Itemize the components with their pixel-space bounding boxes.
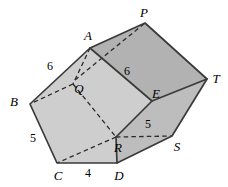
vertex-label-Q: Q — [74, 82, 83, 95]
vertex-label-C: C — [54, 169, 63, 182]
edge-length-label-ES: 5 — [145, 118, 151, 130]
vertex-label-E: E — [152, 87, 160, 100]
vertex-label-T: T — [212, 72, 219, 85]
edge-length-label-AE: 6 — [124, 65, 130, 77]
edge-length-label-CD: 4 — [85, 167, 91, 179]
vertex-label-P: P — [140, 6, 148, 19]
vertex-label-R: R — [114, 141, 122, 154]
edge-length-label-BA: 6 — [47, 60, 53, 72]
edge-length-label-BC: 5 — [30, 132, 36, 144]
geometry-figure: P A T E B Q R S C D 6 6 5 5 4 — [0, 0, 228, 187]
polyhedron-drawing — [0, 0, 228, 187]
vertex-label-A: A — [84, 29, 92, 42]
vertex-label-S: S — [174, 140, 181, 153]
vertex-label-B: B — [10, 95, 18, 108]
vertex-label-D: D — [114, 169, 123, 182]
